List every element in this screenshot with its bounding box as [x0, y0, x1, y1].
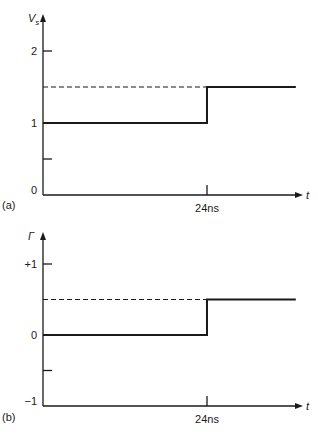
y-tick-label: +1 [24, 258, 37, 270]
panel-label: (b) [2, 411, 15, 423]
x-axis-label: t [306, 400, 310, 412]
panel-b: Γt(b)−10+124ns [2, 230, 310, 425]
y-axis-arrow [40, 14, 46, 22]
series-signal [43, 300, 296, 336]
x-tick-label: 24ns [195, 202, 219, 214]
y-axis-label: Γ [28, 230, 35, 242]
y-tick-label: −1 [24, 395, 37, 407]
x-axis-arrow [295, 403, 303, 409]
y-axis-label-subscript: s [35, 18, 39, 27]
y-tick-label: 2 [31, 45, 37, 57]
x-tick-label: 24ns [195, 413, 219, 425]
panel-label: (a) [2, 199, 15, 211]
y-axis-arrow [40, 232, 46, 240]
y-axis-label: Vs [28, 12, 39, 27]
panel-a: Vst(a)01224ns [2, 12, 310, 214]
series-signal [43, 87, 296, 123]
y-tick-label: 0 [31, 184, 37, 196]
x-axis-arrow [295, 192, 303, 198]
x-axis-label: t [306, 189, 310, 201]
y-tick-label: 0 [31, 329, 37, 341]
y-tick-label: 1 [31, 117, 37, 129]
figure: Vst(a)01224nsΓt(b)−10+124ns [0, 0, 318, 440]
